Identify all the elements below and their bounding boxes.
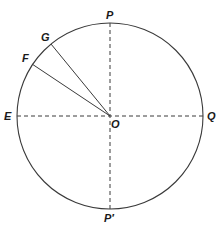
label-f: F bbox=[22, 52, 29, 64]
label-p: P bbox=[106, 9, 114, 21]
radius-o-g bbox=[51, 44, 110, 116]
circle-diagram: P P′ E Q O G F bbox=[0, 0, 220, 228]
label-p-prime: P′ bbox=[104, 212, 115, 224]
label-e: E bbox=[4, 110, 12, 122]
label-g: G bbox=[41, 31, 50, 43]
label-o: O bbox=[111, 118, 120, 130]
radius-o-f bbox=[32, 64, 110, 116]
label-q: Q bbox=[207, 110, 216, 122]
